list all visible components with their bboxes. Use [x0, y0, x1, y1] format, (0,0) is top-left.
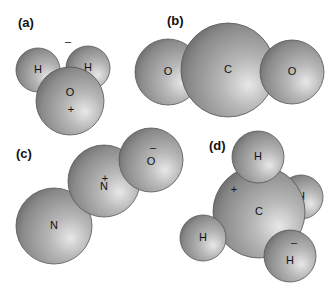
- atom-symbol: O: [164, 65, 173, 77]
- panel-label: (d): [209, 138, 226, 153]
- panel-label: (a): [18, 15, 34, 30]
- negative-charge-icon: –: [65, 35, 72, 47]
- atom-symbol: H: [286, 254, 294, 266]
- panel-ch4: (d)HCHHH+–: [180, 131, 323, 282]
- molecule-figure: (a)HHO–+(b)OCO(c)NNO+–(d)HCHHH+–: [0, 0, 330, 292]
- panel-h2o: (a)HHO–+: [16, 15, 110, 135]
- negative-charge-icon: –: [291, 236, 298, 248]
- atom-symbol: O: [147, 155, 156, 167]
- positive-charge-icon: +: [68, 103, 74, 115]
- atom-symbol: C: [224, 63, 232, 75]
- panel-co2: (b)OCO: [135, 13, 324, 117]
- atom-symbol: C: [255, 205, 263, 217]
- figure-canvas: (a)HHO–+(b)OCO(c)NNO+–(d)HCHHH+–: [0, 0, 330, 292]
- atom-symbol: O: [288, 65, 297, 77]
- panel-label: (b): [167, 13, 184, 28]
- positive-charge-icon: +: [231, 183, 237, 195]
- atom-symbol: H: [199, 231, 207, 243]
- atom-symbol: O: [66, 86, 75, 98]
- negative-charge-icon: –: [150, 141, 157, 153]
- panel-n2o: (c)NNO+–: [16, 128, 183, 264]
- atom-symbol: N: [50, 219, 58, 231]
- atom-o-sphere: [36, 67, 104, 135]
- atom-symbol: H: [254, 150, 262, 162]
- atom-symbol: H: [34, 63, 42, 75]
- positive-charge-icon: +: [102, 172, 108, 184]
- panel-label: (c): [16, 146, 32, 161]
